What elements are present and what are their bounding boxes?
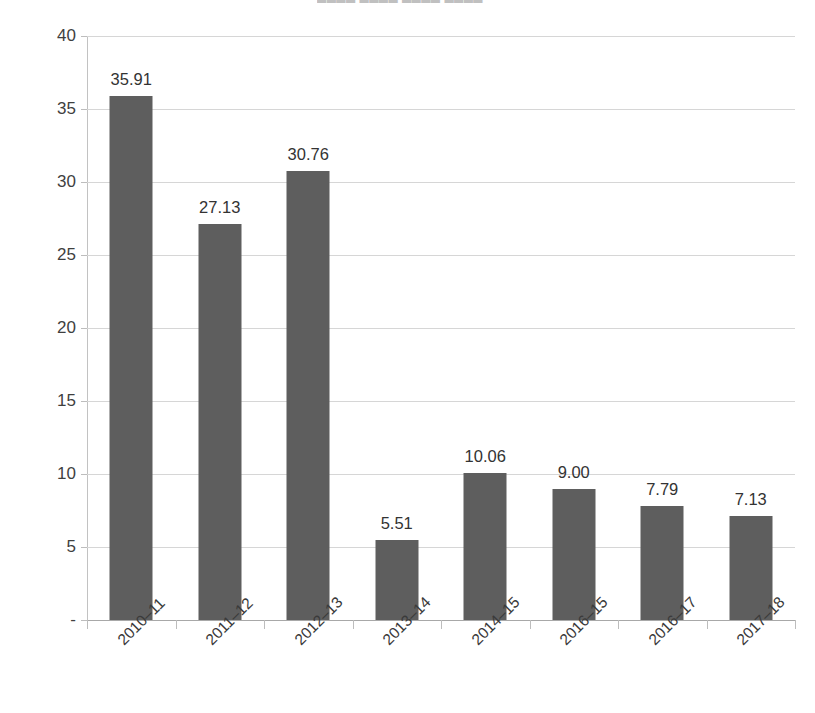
bar-group: 10.06 (441, 36, 530, 620)
x-axis-tick (441, 620, 442, 629)
y-axis-tick-label: - (14, 610, 76, 630)
bar-group: 7.79 (618, 36, 707, 620)
y-axis-tick-label: 10 (14, 464, 76, 484)
x-axis-tick (618, 620, 619, 629)
x-axis-ticks (87, 620, 795, 630)
bar-value-label: 10.06 (465, 447, 506, 466)
bar-group: 27.13 (176, 36, 265, 620)
bar-value-label: 7.13 (735, 490, 767, 509)
x-axis-tick (795, 620, 796, 629)
plot-area: 35.9127.1330.765.5110.069.007.797.13 (87, 36, 795, 620)
x-axis-tick (87, 620, 88, 629)
y-axis-labels: -510152025303540 (0, 0, 76, 713)
bar-value-label: 27.13 (199, 198, 240, 217)
bar-value-label: 7.79 (646, 480, 678, 499)
y-axis-tick-label: 30 (14, 172, 76, 192)
bar-value-label: 35.91 (111, 70, 152, 89)
y-axis-tick-label: 15 (14, 391, 76, 411)
x-axis-tick (530, 620, 531, 629)
bar-value-label: 9.00 (558, 463, 590, 482)
bar-group: 35.91 (87, 36, 176, 620)
y-axis-tick-label: 35 (14, 99, 76, 119)
bar-value-label: 30.76 (288, 145, 329, 164)
bar[interactable] (287, 171, 330, 620)
bar-group: 9.00 (530, 36, 619, 620)
bar-value-label: 5.51 (381, 514, 413, 533)
bar[interactable] (110, 96, 153, 620)
y-axis-tick-label: 5 (14, 537, 76, 557)
x-axis-labels: 2010–112011–122012–132013–142014–152016–… (87, 630, 795, 713)
x-axis-tick (176, 620, 177, 629)
x-axis-tick (707, 620, 708, 629)
x-axis-tick (353, 620, 354, 629)
bar-group: 30.76 (264, 36, 353, 620)
bar-group: 7.13 (707, 36, 796, 620)
y-axis-tick-label: 25 (14, 245, 76, 265)
bar[interactable] (552, 489, 595, 620)
bar[interactable] (198, 224, 241, 620)
y-axis-tick-label: 40 (14, 26, 76, 46)
bar-group: 5.51 (353, 36, 442, 620)
y-axis-tick-label: 20 (14, 318, 76, 338)
bar[interactable] (464, 473, 507, 620)
x-axis-tick (264, 620, 265, 629)
chart-title-cropped: ████ ████ ████ ████ (250, 0, 550, 3)
